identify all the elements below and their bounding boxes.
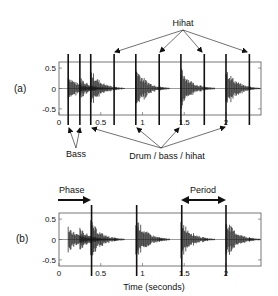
x-tick-label: 0.5 [95,269,107,278]
hihat-arrows [115,30,247,52]
panel-a-x-ticks: 00.511.52 [57,112,229,127]
waveform-path [68,220,259,259]
panel-a-label: (a) [14,83,26,94]
panel-b-waveform [68,220,259,259]
x-tick-label: 1.5 [179,269,191,278]
y-tick-label: 0 [52,236,57,245]
y-tick-label: -0.5 [42,256,56,265]
x-tick-label: 1 [140,269,145,278]
figure: (a) 0.50-0.5 00.511.52 Hihat Bass Drum /… [0,0,278,296]
drum-bass-hihat-label: Drum / bass / hihat [129,151,205,161]
period-label: Period [190,185,216,195]
y-tick-label: 0.5 [45,64,57,73]
hihat-label: Hihat [172,18,194,28]
phase-label: Phase [59,185,85,195]
panel-b-label: (b) [16,233,28,244]
panel-b-x-ticks: 00.511.52 [57,263,229,278]
bass-label: Bass [66,149,87,159]
panel-a: (a) 0.50-0.5 00.511.52 Hihat Bass Drum /… [14,18,261,161]
x-tick-label: 0.5 [95,118,107,127]
panel-a-waveform [68,69,259,109]
y-tick-label: -0.5 [42,105,56,114]
x-tick-label: 1 [140,118,145,127]
x-axis-label: Time (seconds) [123,282,185,292]
panel-b: (b) 0.50-0.5 00.511.52 Phase Period Time… [16,185,261,292]
bass-arrows [69,128,80,148]
waveform-path [68,69,259,109]
x-tick-label: 0 [57,269,62,278]
y-tick-label: 0 [52,85,57,94]
x-tick-label: 0 [57,118,62,127]
y-tick-label: 0.5 [45,215,57,224]
drum-arrows [92,127,225,148]
